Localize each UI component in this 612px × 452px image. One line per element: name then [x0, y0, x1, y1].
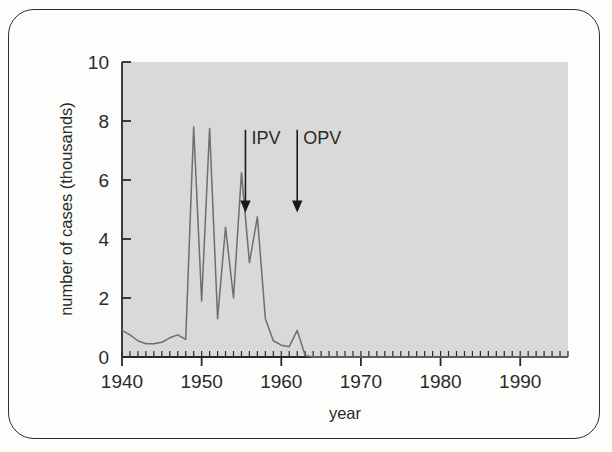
x-tick-label: 1970: [340, 371, 382, 392]
x-axis-tick-labels: 194019501960197019801990: [101, 371, 541, 392]
x-tick-label: 1940: [101, 371, 143, 392]
x-tick-label: 1990: [499, 371, 541, 392]
x-tick-label: 1950: [181, 371, 223, 392]
x-axis-title: year: [329, 404, 362, 422]
y-tick-label: 8: [98, 111, 109, 132]
plot-area-background: [122, 62, 568, 356]
y-tick-label: 2: [98, 288, 109, 309]
x-axis-major-ticks: [122, 357, 520, 366]
y-tick-label: 0: [98, 347, 109, 368]
x-tick-label: 1960: [260, 371, 302, 392]
annotation-label: OPV: [303, 128, 341, 148]
y-tick-label: 4: [98, 229, 109, 250]
annotation-label: IPV: [251, 128, 280, 148]
y-axis-title: number of cases (thousands): [57, 102, 75, 316]
y-tick-label: 6: [98, 170, 109, 191]
y-axis-tick-labels: 0246810: [88, 52, 110, 368]
x-tick-label: 1980: [419, 371, 461, 392]
chart-canvas: 0246810 194019501960197019801990 IPVOPV …: [0, 0, 612, 452]
y-tick-label: 10: [88, 52, 109, 73]
figure-container: 0246810 194019501960197019801990 IPVOPV …: [0, 0, 612, 452]
